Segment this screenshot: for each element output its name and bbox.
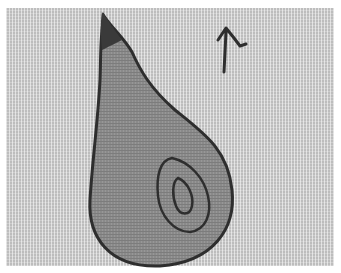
- applique-artwork: [0, 0, 341, 273]
- textile-photo: [0, 0, 341, 273]
- pear-applique: [90, 16, 233, 266]
- stitched-mark: [218, 28, 246, 72]
